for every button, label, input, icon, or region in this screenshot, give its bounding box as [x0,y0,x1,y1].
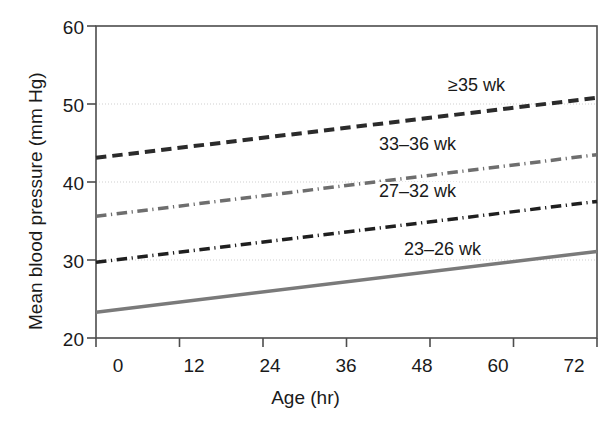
series-label-27-32wk: 27–32 wk [377,182,458,200]
x-tick-label-48: 48 [402,356,442,375]
series-label-33-36wk: 33–36 wk [377,135,458,153]
chart-figure: 60 50 40 30 20 0 12 24 36 48 60 72 Mean … [0,0,611,424]
series-line-2 [96,202,597,263]
x-axis-title: Age (hr) [0,388,611,407]
x-axis-ticks [96,338,597,347]
plot-area [0,0,611,424]
y-tick-label-50: 50 [44,96,84,115]
series-label-ge35wk: ≥35 wk [446,76,507,94]
x-tick-label-0: 0 [98,356,138,375]
y-tick-label-20: 20 [44,330,84,349]
x-tick-label-36: 36 [326,356,366,375]
x-tick-label-60: 60 [478,356,518,375]
x-tick-label-12: 12 [174,356,214,375]
series-line-3 [96,251,597,312]
y-tick-label-30: 30 [44,252,84,271]
series-line-0 [96,98,597,158]
x-tick-label-72: 72 [554,356,594,375]
series-lines [96,98,597,313]
y-tick-label-60: 60 [44,18,84,37]
series-label-23-26wk: 23–26 wk [402,240,483,258]
y-axis-ticks [87,26,96,338]
x-tick-label-24: 24 [250,356,290,375]
y-axis-title: Mean blood pressure (mm Hg) [26,72,45,330]
series-line-1 [96,155,597,217]
y-tick-label-40: 40 [44,174,84,193]
